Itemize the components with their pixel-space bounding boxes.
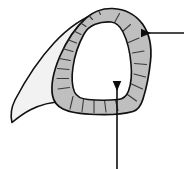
figure-container bbox=[0, 0, 184, 169]
cross-section-diagram bbox=[0, 0, 184, 169]
